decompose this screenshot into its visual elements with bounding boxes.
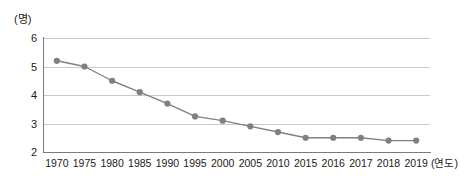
x-tick-label: 2019 xyxy=(404,156,427,170)
x-tick-label: 1990 xyxy=(156,156,179,170)
data-point-marker xyxy=(220,118,226,124)
x-tick-label: 2018 xyxy=(377,156,400,170)
series-line xyxy=(57,61,416,141)
data-point-marker xyxy=(413,138,419,144)
x-tick-label: 2015 xyxy=(294,156,317,170)
data-point-marker xyxy=(275,129,281,135)
data-point-marker xyxy=(330,135,336,141)
x-tick-label: 2005 xyxy=(239,156,262,170)
x-axis-tick-labels: 1970197519801985199019952000200520102015… xyxy=(43,156,430,172)
data-point-marker xyxy=(303,135,309,141)
data-point-marker xyxy=(137,89,143,95)
data-point-marker xyxy=(358,135,364,141)
x-axis-unit-label: (연도) xyxy=(431,156,458,170)
x-tick-label: 1970 xyxy=(45,156,68,170)
data-point-marker xyxy=(385,138,391,144)
data-point-marker xyxy=(54,58,60,64)
data-point-marker xyxy=(247,123,253,129)
data-point-marker xyxy=(192,113,198,119)
x-tick-label: 2010 xyxy=(266,156,289,170)
x-tick-label: 2017 xyxy=(349,156,372,170)
x-tick-label: 1975 xyxy=(73,156,96,170)
x-tick-label: 1985 xyxy=(128,156,151,170)
data-point-marker xyxy=(81,63,87,69)
data-point-marker xyxy=(164,100,170,106)
x-tick-label: 1995 xyxy=(183,156,206,170)
x-tick-label: 1980 xyxy=(100,156,123,170)
data-point-marker xyxy=(109,78,115,84)
chart-screenshot: (명) 65432 197019751980198519901995200020… xyxy=(0,0,475,176)
x-tick-label: 2000 xyxy=(211,156,234,170)
x-tick-label: 2016 xyxy=(322,156,345,170)
line-series xyxy=(0,0,475,176)
